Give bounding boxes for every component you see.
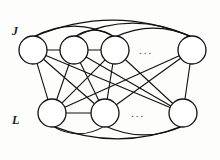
graph-node — [19, 36, 47, 64]
graph-node — [60, 36, 88, 64]
intra-layer-arc — [74, 30, 115, 37]
graph-canvas — [0, 0, 220, 160]
graph-node — [91, 99, 119, 127]
inter-layer-edge — [37, 63, 48, 99]
ellipsis-bottom-row: ... — [131, 108, 145, 119]
ellipsis-top-row: ... — [139, 45, 153, 56]
layer-label-l: L — [12, 114, 19, 126]
inter-layer-edge — [185, 64, 190, 99]
graph-nodes — [19, 36, 206, 127]
inter-layer-edge — [86, 57, 171, 106]
inter-layer-edge — [57, 63, 70, 100]
intra-layer-arc — [52, 126, 105, 134]
inter-layer-edge — [65, 56, 179, 108]
intra-layer-arc — [115, 28, 192, 37]
graph-node — [169, 99, 197, 127]
graph-node — [38, 99, 66, 127]
intra-layer-arc — [105, 126, 183, 135]
layer-label-j: J — [12, 25, 18, 37]
graph-figure: J L ... ... — [0, 0, 220, 160]
inter-layer-edge — [116, 58, 180, 105]
graph-node — [178, 36, 206, 64]
graph-node — [101, 36, 129, 64]
